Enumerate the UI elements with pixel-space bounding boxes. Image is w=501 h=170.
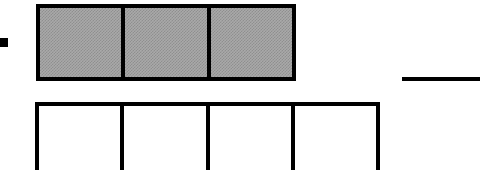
blank-tape-bar — [35, 102, 380, 170]
bullet-marker-icon — [0, 38, 8, 47]
tape-cell-blank — [124, 106, 209, 170]
shaded-tape-bar — [36, 4, 296, 81]
tape-cell-blank — [210, 106, 295, 170]
tape-cell-blank — [295, 106, 376, 170]
tape-cell-shaded — [40, 8, 125, 77]
figure-canvas — [0, 0, 501, 170]
tape-cell-shaded — [125, 8, 210, 77]
tape-cell-shaded — [211, 8, 292, 77]
tape-cell-blank — [39, 106, 124, 170]
answer-blank-rule — [402, 77, 480, 81]
